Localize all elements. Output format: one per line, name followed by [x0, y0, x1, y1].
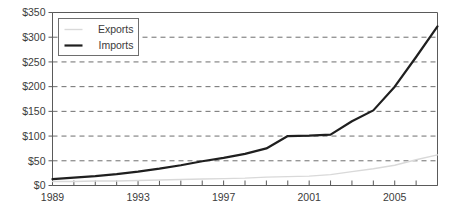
y-axis-tick-label: $0: [34, 179, 46, 191]
y-axis-tick-label: $50: [28, 155, 46, 167]
y-axis-tick-label: $250: [22, 56, 46, 68]
chart-legend: ExportsImports: [59, 19, 139, 56]
x-axis-tick-label: 1993: [126, 191, 150, 203]
y-axis-tick-label: $100: [22, 130, 46, 142]
legend-label-exports: Exports: [98, 23, 134, 35]
y-axis-tick-label: $200: [22, 80, 46, 92]
legend-label-imports: Imports: [98, 39, 133, 51]
x-axis-tick-label: 2001: [297, 191, 321, 203]
x-axis-tick-label: 1997: [212, 191, 236, 203]
chart-container: $350$300$250$200$150$100$50$0 1989199319…: [0, 0, 449, 219]
y-axis-tick-label: $300: [22, 31, 46, 43]
x-axis-tick-label: 1989: [41, 191, 65, 203]
y-axis-tick-label: $150: [22, 105, 46, 117]
line-chart: $350$300$250$200$150$100$50$0 1989199319…: [0, 0, 449, 219]
x-axis-tick-label: 2005: [383, 191, 407, 203]
y-axis-tick-label: $350: [22, 6, 46, 18]
